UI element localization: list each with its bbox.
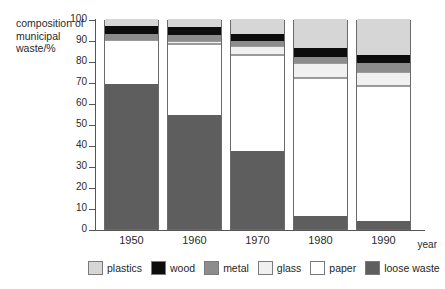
y-tick-label: 10: [61, 202, 87, 213]
chart-legend: plasticswoodmetalglasspaperloose waste: [88, 261, 440, 275]
bar-segment-metal: [168, 35, 221, 41]
x-tick-label: 1970: [223, 234, 293, 246]
bar-segment-wood: [294, 48, 347, 56]
legend-label: metal: [223, 262, 249, 274]
y-tick-label: 30: [61, 160, 87, 171]
y-tick-mark: [89, 188, 95, 189]
legend-item: wood: [151, 261, 195, 275]
stacked-bar: [293, 20, 348, 230]
x-axis-title: year: [418, 239, 437, 250]
legend-swatch: [88, 261, 103, 275]
bar-segment-wood: [105, 26, 158, 33]
x-tick-label: 1960: [160, 234, 230, 246]
bar-segment-plastics: [168, 19, 221, 27]
legend-swatch: [204, 261, 219, 275]
legend-item: plastics: [88, 261, 142, 275]
x-tick-label: 1980: [286, 234, 356, 246]
bar-segment-glass: [357, 72, 410, 87]
stacked-bar: [356, 20, 411, 230]
legend-label: wood: [170, 262, 195, 274]
bar-segment-metal: [231, 41, 284, 46]
stacked-bar: [104, 20, 159, 230]
x-axis-line: [95, 230, 425, 231]
legend-label: paper: [329, 262, 356, 274]
bar-segment-paper: [105, 40, 158, 84]
y-tick-mark: [89, 125, 95, 126]
y-tick-label: 70: [61, 76, 87, 87]
legend-item: paper: [310, 261, 356, 275]
y-tick-label: 60: [61, 97, 87, 108]
legend-item: metal: [204, 261, 249, 275]
bar-segment-glass: [168, 41, 221, 44]
bar-segment-loose-waste: [357, 221, 410, 229]
y-tick-label: 100: [61, 13, 87, 24]
y-tick-mark: [89, 62, 95, 63]
bar-segment-metal: [105, 34, 158, 40]
stacked-bar: [167, 20, 222, 230]
bar-segment-glass: [231, 46, 284, 54]
bar-segment-metal: [357, 63, 410, 71]
y-tick-label: 40: [61, 139, 87, 150]
bar-segment-loose-waste: [294, 216, 347, 229]
legend-swatch: [258, 261, 273, 275]
bar-segment-wood: [231, 34, 284, 41]
legend-label: glass: [277, 262, 302, 274]
bar-segment-paper: [231, 55, 284, 152]
y-tick-mark: [89, 167, 95, 168]
bar-segment-plastics: [357, 19, 410, 55]
legend-swatch: [151, 261, 166, 275]
y-tick-label: 80: [61, 55, 87, 66]
legend-item: glass: [258, 261, 302, 275]
y-tick-label: 0: [61, 223, 87, 234]
bar-segment-loose-waste: [168, 115, 221, 229]
bar-segment-plastics: [105, 19, 158, 26]
bar-segment-paper: [168, 44, 221, 114]
legend-item: loose waste: [365, 261, 439, 275]
y-tick-mark: [89, 20, 95, 21]
y-axis-line: [95, 19, 96, 231]
legend-label: plastics: [107, 262, 142, 274]
bar-segment-glass: [294, 63, 347, 78]
x-tick-label: 1990: [349, 234, 419, 246]
bar-segment-paper: [294, 78, 347, 217]
bar-segment-plastics: [294, 19, 347, 48]
y-tick-label: 20: [61, 181, 87, 192]
bar-segment-wood: [357, 55, 410, 63]
stacked-bar: [230, 20, 285, 230]
legend-swatch: [310, 261, 325, 275]
y-tick-mark: [89, 230, 95, 231]
y-tick-mark: [89, 83, 95, 84]
y-tick-label: 90: [61, 34, 87, 45]
legend-label: loose waste: [384, 262, 439, 274]
bar-segment-metal: [294, 57, 347, 63]
y-tick-mark: [89, 104, 95, 105]
waste-composition-chart: composition of municipal waste/% 0102030…: [0, 0, 445, 289]
bar-segment-plastics: [231, 19, 284, 34]
y-tick-mark: [89, 41, 95, 42]
y-tick-label: 50: [61, 118, 87, 129]
bar-segment-paper: [357, 86, 410, 220]
bar-segment-loose-waste: [105, 84, 158, 229]
bar-segment-wood: [168, 27, 221, 34]
y-tick-mark: [89, 146, 95, 147]
legend-swatch: [365, 261, 380, 275]
x-tick-label: 1950: [97, 234, 167, 246]
y-tick-mark: [89, 209, 95, 210]
bar-segment-loose-waste: [231, 151, 284, 229]
